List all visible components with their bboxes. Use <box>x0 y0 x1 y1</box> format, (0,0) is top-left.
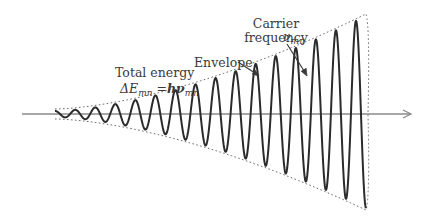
carrier-arrowhead-icon <box>301 68 307 76</box>
delta-e-symbol: ΔE <box>120 81 138 96</box>
h-nu-subscript: mn <box>185 88 199 98</box>
nu-subscript: mn <box>291 36 305 46</box>
envelope-label: Envelope <box>194 56 253 70</box>
nu-symbol: ν <box>283 29 291 44</box>
delta-e-subscript: mn <box>138 88 152 98</box>
carrier-label-line2: frequency <box>228 31 324 45</box>
energy-equation: ΔEmn =hνmn <box>120 82 199 100</box>
equals-sign: = <box>153 81 167 96</box>
wave-diagram <box>0 0 429 218</box>
h-nu-symbol: hν <box>167 81 185 96</box>
carrier-frequency-symbol: νmn <box>283 30 305 48</box>
carrier-label-line1: Carrier <box>243 17 309 31</box>
total-energy-label: Total energy <box>115 66 194 80</box>
